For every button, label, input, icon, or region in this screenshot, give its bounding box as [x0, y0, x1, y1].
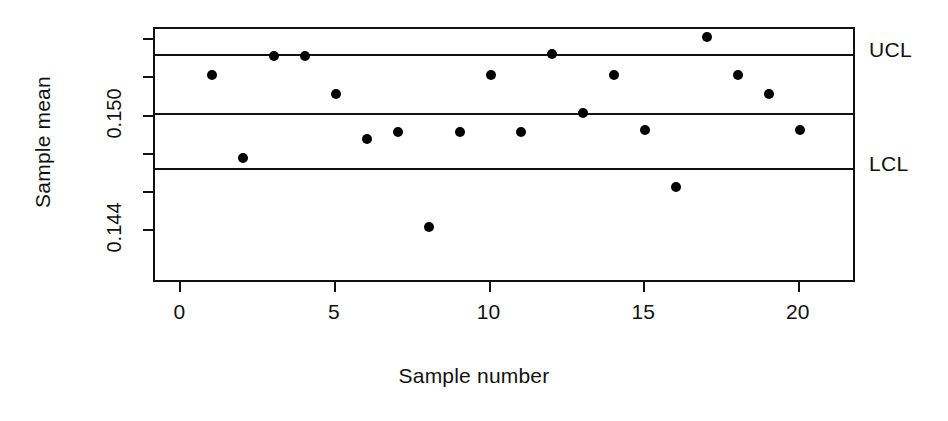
- data-point: [516, 127, 526, 137]
- data-point: [547, 49, 557, 59]
- x-tick: [643, 282, 645, 292]
- plot-area: [153, 27, 855, 282]
- y-tick-label: 0.150: [103, 73, 126, 153]
- data-point: [795, 125, 805, 135]
- data-point: [640, 125, 650, 135]
- x-tick: [489, 282, 491, 292]
- x-tick-label: 10: [459, 300, 519, 324]
- data-point: [455, 127, 465, 137]
- data-point: [733, 70, 743, 80]
- x-tick: [798, 282, 800, 292]
- x-tick-label: 0: [149, 300, 209, 324]
- data-point: [578, 108, 588, 118]
- x-tick-label: 20: [768, 300, 828, 324]
- data-point: [393, 127, 403, 137]
- x-tick-label: 15: [613, 300, 673, 324]
- data-point: [764, 89, 774, 99]
- data-point: [331, 89, 341, 99]
- data-point: [671, 182, 681, 192]
- control-line-lcl: [155, 168, 853, 170]
- data-point: [207, 70, 217, 80]
- y-tick-label: 0.144: [103, 187, 126, 267]
- ucl-label: UCL: [869, 38, 912, 62]
- data-point: [609, 70, 619, 80]
- data-point: [424, 222, 434, 232]
- control-chart: Sample mean 0.1500.144 05101520 UCLLCL S…: [0, 0, 948, 421]
- lcl-label: LCL: [869, 152, 908, 176]
- x-tick: [334, 282, 336, 292]
- data-point: [486, 70, 496, 80]
- control-line-ucl: [155, 54, 853, 56]
- data-point: [362, 134, 372, 144]
- x-tick: [179, 282, 181, 292]
- control-line-center: [155, 113, 853, 115]
- data-point: [702, 32, 712, 42]
- x-tick-label: 5: [304, 300, 364, 324]
- data-point: [269, 51, 279, 61]
- data-point: [238, 153, 248, 163]
- data-point: [300, 51, 310, 61]
- y-axis-title: Sample mean: [31, 37, 55, 247]
- x-axis-title: Sample number: [0, 364, 948, 388]
